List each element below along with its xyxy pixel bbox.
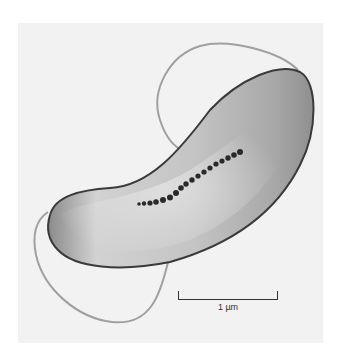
bacterium-illustration: [0, 0, 340, 360]
scale-bar: [178, 291, 278, 300]
scale-bar-label: 1 µm: [178, 302, 278, 312]
